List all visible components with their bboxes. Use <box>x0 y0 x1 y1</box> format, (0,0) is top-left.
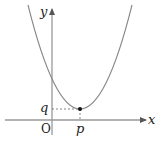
vertex-y-label: q <box>40 100 48 115</box>
y-axis-label: y <box>39 4 48 19</box>
parabola-curve <box>28 5 132 109</box>
x-axis-label: x <box>148 112 156 127</box>
origin-label: O <box>41 122 51 136</box>
vertex-x-label: p <box>76 121 85 136</box>
vertex-point <box>78 107 82 111</box>
parabola-diagram: y x O p q <box>0 0 159 143</box>
